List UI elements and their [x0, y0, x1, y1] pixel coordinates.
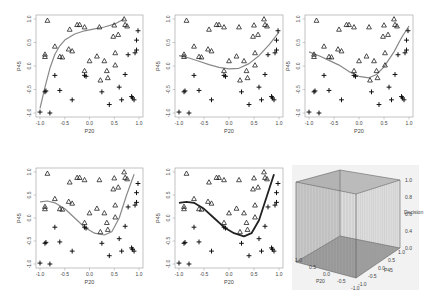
triangle-marker — [245, 75, 250, 79]
triangle-marker — [184, 18, 189, 22]
triangle-marker — [104, 220, 109, 224]
y-tick-label: -1.0 — [295, 108, 301, 117]
triangle-marker — [116, 185, 121, 189]
cross-marker — [259, 249, 264, 254]
x-axis-label: P20 — [224, 279, 234, 285]
triangle-marker — [82, 220, 87, 224]
cross-marker — [123, 72, 128, 77]
x-tick-label: 0.0 — [356, 120, 363, 126]
cross-marker — [263, 72, 268, 77]
y-tick-label: 0.5 — [26, 39, 32, 46]
x-axis-label: P20 — [85, 279, 95, 285]
triangle-marker — [45, 171, 50, 175]
triangle-marker — [337, 27, 342, 31]
y-tick-label: -1.0 — [26, 259, 32, 268]
cross-marker — [183, 89, 188, 94]
y-tick-label: 0.5 — [26, 191, 32, 198]
cross-marker — [197, 240, 202, 245]
x-axis-label: P20 — [85, 128, 95, 134]
x-tick-label: -0.5 — [330, 120, 339, 126]
x-tick-label: -1.0 — [305, 120, 314, 126]
y3d-tick-label: 0.5 — [388, 257, 395, 263]
y3d-tick-label: 1.0 — [398, 249, 405, 255]
triangle-marker — [253, 203, 258, 207]
cross-marker — [123, 224, 128, 229]
cross-marker — [136, 181, 141, 186]
cross-marker — [192, 225, 197, 230]
cross-marker — [134, 190, 139, 195]
cross-marker — [70, 249, 75, 254]
x-tick-label: 0.0 — [86, 271, 93, 277]
cross-marker — [266, 52, 271, 57]
triangle-marker — [244, 68, 249, 72]
triangle-marker — [66, 199, 71, 203]
y-tick-label: 0.5 — [165, 39, 171, 46]
triangle-marker — [45, 18, 50, 22]
triangle-marker — [105, 75, 110, 79]
x-tick-label: 0.5 — [251, 120, 258, 126]
triangle-marker — [67, 180, 72, 184]
triangle-marker — [104, 68, 109, 72]
cross-marker — [182, 89, 187, 94]
triangle-marker — [227, 58, 232, 62]
cross-marker — [209, 249, 214, 254]
x-tick-label: 0.0 — [226, 271, 233, 277]
triangle-marker — [244, 220, 249, 224]
triangle-marker — [238, 78, 243, 82]
triangle-marker — [206, 199, 211, 203]
x-tick-label: -1.0 — [36, 120, 45, 126]
cross-marker — [38, 110, 43, 115]
x-tick-label: 0.5 — [111, 120, 118, 126]
y-tick-label: -0.5 — [26, 236, 32, 245]
x-tick-label: 1.0 — [276, 120, 283, 126]
cross-marker — [247, 253, 252, 258]
triangle-marker — [252, 23, 257, 27]
triangle-marker — [364, 54, 369, 58]
cross-marker — [339, 97, 344, 102]
triangle-marker — [105, 227, 110, 231]
y-tick-label: -0.5 — [295, 85, 301, 94]
triangle-marker — [82, 25, 87, 29]
triangle-marker — [113, 215, 118, 219]
y-tick-label: 0.0 — [26, 214, 32, 221]
triangle-marker — [251, 34, 256, 38]
triangle-marker — [251, 187, 256, 191]
cross-marker — [327, 88, 332, 93]
cross-marker — [274, 190, 279, 195]
x-tick-label: 0.5 — [381, 120, 388, 126]
scatter-panel-3: -1.0-0.50.00.51.0-1.0-0.50.00.51.0P20P45 — [285, 15, 413, 134]
triangle-marker — [256, 185, 261, 189]
triangle-marker — [82, 177, 87, 181]
cross-marker — [126, 205, 131, 210]
triangle-marker — [52, 44, 57, 48]
y-tick-label: 0.5 — [165, 191, 171, 198]
triangle-marker — [87, 211, 92, 215]
triangle-marker — [97, 177, 102, 181]
y-tick-label: -1.0 — [165, 259, 171, 268]
triangle-marker — [222, 220, 227, 224]
cross-marker — [136, 28, 141, 33]
y-axis-label: P45 — [285, 61, 291, 71]
triangle-marker — [352, 25, 357, 29]
triangle-marker — [392, 17, 397, 21]
y-tick-label: 0.0 — [165, 62, 171, 69]
triangle-marker — [242, 58, 247, 62]
cross-marker — [209, 97, 214, 102]
cross-marker — [377, 102, 382, 107]
cross-marker — [406, 28, 411, 33]
cross-marker — [239, 89, 244, 94]
cross-marker — [57, 88, 62, 93]
x-tick-label: 1.0 — [136, 120, 143, 126]
scatter-panel-1: -1.0-0.50.00.51.0-1.0-0.50.00.51.0P20P45 — [16, 15, 143, 134]
plot-frame — [36, 168, 143, 268]
cross-marker — [117, 85, 122, 90]
cross-marker — [187, 111, 192, 116]
triangle-marker — [102, 211, 107, 215]
cross-marker — [126, 52, 131, 57]
triangle-marker — [116, 32, 121, 36]
cross-marker — [117, 236, 122, 241]
triangle-marker — [98, 229, 103, 233]
cross-marker — [70, 97, 75, 102]
cross-marker — [257, 236, 262, 241]
decision-curve — [309, 26, 409, 78]
